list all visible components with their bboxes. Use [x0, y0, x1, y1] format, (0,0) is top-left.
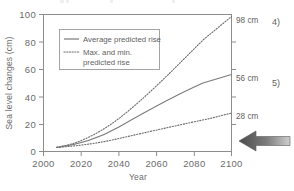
sea-level-chart: 100 80 60 40 20 0 Sea level changes (cm)…: [0, 0, 294, 191]
legend-label-average: Average predicted rise: [83, 35, 161, 44]
y-axis-tick-labels: 100 80 60 40 20 0: [19, 9, 36, 157]
endpoint-label-56cm: 56 cm: [236, 74, 258, 83]
x-tick-label: 2020: [70, 158, 92, 169]
y-tick-label: 20: [25, 119, 36, 130]
x-tick-label: 2100: [220, 158, 242, 169]
x-tick-label: 2060: [145, 158, 167, 169]
y-tick-label: 100: [19, 9, 36, 20]
margin-number-5: 5): [272, 78, 280, 88]
endpoint-labels: 98 cm 56 cm 28 cm: [236, 16, 258, 121]
y-axis-ticks-left: [39, 15, 44, 152]
chart-legend: Average predicted rise Max. and min. pre…: [60, 30, 161, 70]
x-tick-label: 2040: [108, 158, 130, 169]
x-axis-ticks: [44, 152, 232, 157]
legend-label-maxmin-line2: predicted rise: [83, 58, 130, 67]
y-tick-label: 40: [25, 92, 36, 103]
y-tick-label: 60: [25, 64, 36, 75]
chart-svg: 100 80 60 40 20 0 Sea level changes (cm)…: [0, 0, 294, 191]
x-axis-title: Year: [129, 172, 147, 182]
arrow-shape: [239, 131, 290, 151]
top-cropped-text-fragments: [60, 0, 175, 3]
curve-average-predicted-rise: [57, 75, 232, 148]
y-tick-label: 0: [30, 146, 36, 157]
endpoint-label-98cm: 98 cm: [236, 16, 258, 25]
endpoint-label-28cm: 28 cm: [236, 112, 258, 121]
x-tick-label: 2080: [183, 158, 205, 169]
legend-label-maxmin: Max. and min.: [83, 48, 132, 57]
margin-number-4: 4): [272, 17, 280, 27]
y-tick-label: 80: [25, 37, 36, 48]
y-axis-title: Sea level changes (cm): [4, 36, 14, 129]
margin-question-numbers: 4) 5): [272, 17, 280, 88]
x-tick-label: 2000: [32, 158, 54, 169]
left-pointing-arrow-icon: [239, 131, 290, 151]
x-axis-tick-labels: 2000 2020 2040 2060 2080 2100: [32, 158, 242, 169]
